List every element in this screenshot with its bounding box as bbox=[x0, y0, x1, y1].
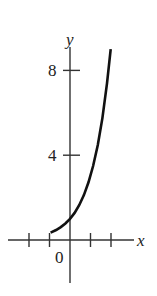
exponential-curve bbox=[51, 49, 111, 232]
function-graph: y x 0 4 8 bbox=[0, 0, 157, 296]
y-ticks bbox=[63, 70, 80, 155]
origin-label: 0 bbox=[55, 248, 64, 267]
y-tick-label-4: 4 bbox=[48, 146, 57, 165]
y-axis-label: y bbox=[64, 30, 74, 49]
x-axis-label: x bbox=[136, 231, 145, 250]
y-tick-label-8: 8 bbox=[48, 61, 57, 80]
